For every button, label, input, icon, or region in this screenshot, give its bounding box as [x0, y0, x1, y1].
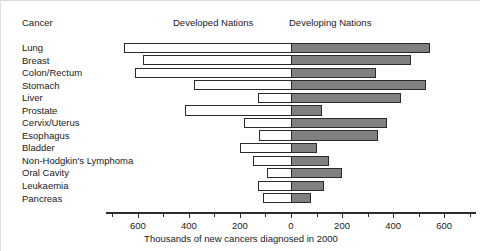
x-axis-tick — [214, 212, 215, 217]
x-axis-tick — [368, 212, 369, 217]
x-axis-tick — [112, 212, 113, 217]
x-axis-tick — [393, 212, 394, 218]
bar-row — [106, 142, 476, 155]
bar-developed — [194, 80, 292, 90]
x-axis-tick-label: 200 — [232, 220, 248, 231]
bar-developed — [259, 130, 292, 140]
bar-developing — [291, 68, 376, 78]
bar-developing — [291, 55, 411, 65]
x-axis-tick-label: 400 — [385, 220, 401, 231]
x-axis-tick — [342, 212, 343, 218]
bar-developing — [291, 181, 324, 191]
bar-developed — [263, 193, 292, 203]
bar-row — [106, 92, 476, 105]
bar-developing — [291, 118, 387, 128]
bar-developed — [244, 118, 292, 128]
bar-developing — [291, 105, 322, 115]
x-axis-tick-label: 600 — [436, 220, 452, 231]
x-axis-tick-label: 600 — [130, 220, 146, 231]
column-header-cancer: Cancer — [22, 17, 53, 28]
legend-developed-nations: Developed Nations — [173, 17, 253, 28]
bar-developed — [267, 168, 292, 178]
bar-row — [106, 167, 476, 180]
bar-row — [106, 180, 476, 193]
bar-row — [106, 193, 476, 206]
bar-row — [106, 117, 476, 130]
x-axis-tick-label: 0 — [288, 220, 293, 231]
bar-developed — [185, 105, 292, 115]
x-axis-title: Thousands of new cancers diagnosed in 20… — [1, 233, 480, 244]
x-axis-tick — [291, 212, 292, 218]
bar-row — [106, 67, 476, 80]
legend-developing-nations: Developing Nations — [289, 17, 371, 28]
x-axis-tick — [189, 212, 190, 218]
bar-developed — [124, 43, 292, 53]
bar-developing — [291, 130, 378, 140]
bar-developed — [143, 55, 292, 65]
x-axis-tick — [265, 212, 266, 217]
bar-row — [106, 42, 476, 55]
bar-row — [106, 130, 476, 143]
bar-row — [106, 55, 476, 68]
x-axis-tick — [317, 212, 318, 217]
x-axis-tick — [240, 212, 241, 218]
bar-row — [106, 105, 476, 118]
x-axis-tick — [419, 212, 420, 217]
bars-plot-area — [106, 42, 476, 205]
bar-row — [106, 155, 476, 168]
bar-row — [106, 80, 476, 93]
bar-developing — [291, 93, 401, 103]
bar-developed — [135, 68, 292, 78]
bar-developing — [291, 156, 329, 166]
x-axis-tick — [163, 212, 164, 217]
bar-developing — [291, 193, 311, 203]
x-axis-tick — [138, 212, 139, 218]
bar-developed — [258, 181, 292, 191]
x-axis-tick — [470, 212, 471, 217]
bar-developing — [291, 43, 430, 53]
x-axis-tick — [444, 212, 445, 218]
bar-developing — [291, 168, 342, 178]
bar-developed — [240, 143, 292, 153]
bar-developing — [291, 143, 317, 153]
bar-developed — [258, 93, 292, 103]
x-axis-tick-label: 400 — [181, 220, 197, 231]
chart-figure: Cancer Developed Nations Developing Nati… — [0, 0, 480, 251]
bar-developing — [291, 80, 426, 90]
bar-developed — [253, 156, 292, 166]
x-axis-tick-label: 200 — [334, 220, 350, 231]
